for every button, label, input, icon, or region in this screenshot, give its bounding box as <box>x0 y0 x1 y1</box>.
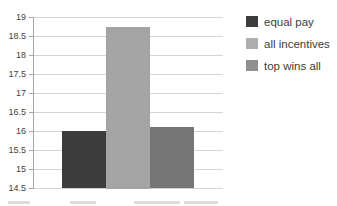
bar-equal-pay <box>62 131 106 188</box>
legend-label: equal pay <box>264 16 314 28</box>
bar-top-wins-all <box>150 127 194 188</box>
legend-swatch <box>246 16 258 27</box>
y-axis-tick-label: 17 <box>0 89 26 98</box>
legend-label: top wins all <box>264 60 321 72</box>
y-axis-tick-label: 15.5 <box>0 146 26 155</box>
cropped-caption-fragment <box>134 201 180 204</box>
legend-item: equal pay <box>246 12 330 24</box>
cropped-caption-fragment <box>8 201 30 204</box>
bar-chart: 1918.51817.51716.51615.51514.5 equal pay… <box>0 0 337 206</box>
y-axis-tick-label: 18.5 <box>0 32 26 41</box>
y-axis-tick-label: 18 <box>0 51 26 60</box>
legend: equal payall incentivestop wins all <box>246 12 330 78</box>
y-axis-line <box>33 17 34 189</box>
gridline <box>33 17 223 18</box>
y-axis-tick-label: 19 <box>0 13 26 22</box>
y-axis-tick-label: 17.5 <box>0 70 26 79</box>
y-axis-tick-label: 16.5 <box>0 108 26 117</box>
legend-label: all incentives <box>264 38 330 50</box>
cropped-caption-fragment <box>184 201 218 204</box>
legend-item: top wins all <box>246 56 330 68</box>
legend-swatch <box>246 38 258 49</box>
y-axis-tick-label: 15 <box>0 165 26 174</box>
legend-swatch <box>246 60 258 71</box>
y-axis-tick-label: 16 <box>0 127 26 136</box>
cropped-caption-fragment <box>70 201 96 204</box>
bar-all-incentives <box>106 27 150 189</box>
y-axis-tick-label: 14.5 <box>0 184 26 193</box>
legend-item: all incentives <box>246 34 330 46</box>
